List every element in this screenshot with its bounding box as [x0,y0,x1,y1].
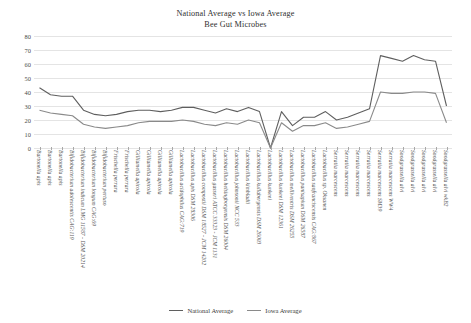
x-axis-tick-label: Gilliamella apicola [157,150,163,195]
x-axis-tick-label: Bifidobacterium pertuso [102,150,108,206]
x-axis-tick-label: Lactobacillus gasseri ATCC 33323 - JCM 1… [212,150,218,258]
y-axis-tick-label: 30 [3,103,31,110]
series-line [40,56,447,148]
x-axis-tick-label: Gilliamella apicola [135,150,141,195]
legend-item[interactable]: National Average [169,307,233,314]
x-axis-tick-label: Frischella perrara [113,150,119,193]
legend-item[interactable]: Iowa Average [247,307,301,314]
legend-line-icon [169,310,183,312]
series-lines [34,36,452,148]
x-axis-tick-label: Frischella perrara [124,150,130,193]
chart-container: National Average vs Iowa Average Bee Gut… [0,0,471,323]
x-axis-tick-label: Lactobacillus kunkeei [267,150,273,200]
chart-title-line-2: Bee Gut Microbes [0,19,471,30]
x-axis-tick-label: Lactobacillus kunkeei DSM 12361 [278,150,284,229]
y-axis-tick-label: 70 [3,47,31,54]
legend-line-icon [247,310,261,312]
y-axis-tick-label: 20 [3,117,31,124]
x-axis-tick-label: Bifidobacterium adolescentis CAG:119 [69,150,75,240]
x-axis-tick-label: Lactobacillus panisapium DSM 26587 [300,150,306,238]
x-axis-tick-label: Lactobacillus apis DSM 28306 [190,150,196,221]
gridline [34,148,452,149]
chart-title: National Average vs Iowa Average Bee Gut… [0,8,471,30]
x-axis-tick-label: Gilliamella apicola [168,150,174,195]
x-axis-tick-label: Lactobacillus kimbladii [245,150,251,204]
y-axis-tick-label: 50 [3,75,31,82]
series-line [40,92,447,148]
x-axis-tick-label: Serratia marcescens [333,150,339,197]
x-axis-tick-label: Serratia marcescens [355,150,361,197]
x-axis-tick-label: Bartonella apis [36,150,42,185]
x-axis-tick-label: Snodgrassella alvi [410,150,416,192]
y-axis-tick-label: 10 [3,131,31,138]
y-axis: 01020304050607080 [0,36,31,148]
legend-item-label: National Average [187,307,233,314]
x-axis-tick-label: Snodgrassella alvi [399,150,405,192]
chart-title-line-1: National Average vs Iowa Average [0,8,471,19]
x-axis-tick-label: Lactobacillus compostii DSM 18527 - JCM … [201,150,207,265]
x-axis-tick-label: Lactobacillus helsingborgensis DSM 26004 [223,150,229,250]
plot-area [34,36,452,148]
x-axis-tick-label: Snodgrassella alvi [421,150,427,192]
y-axis-tick-label: 80 [3,33,31,40]
x-axis-tick-label: Bartonella apis [47,150,53,185]
y-axis-tick-label: 40 [3,89,31,96]
x-axis-tick-label: Snodgrassella alvi [432,150,438,192]
x-axis-tick-label: Serratia marcescens SM39 [377,150,383,211]
x-axis-tick-label: Lactobacillus kullabergensis DSM 26003 [256,150,262,244]
x-axis-tick-label: Lactobacillus sp. Oksanen [322,150,328,210]
x-axis-tick-label: Snodgrassella alvi wkB2 [443,150,449,206]
x-axis-tick-label: Bifidobacterium longum CAG:69 [91,150,97,226]
x-axis-tick-label: Bifidobacterium indicum LMG 11587 - DSM … [80,150,86,268]
x-axis-tick-label: Lactobacillus sanfranciscensis CAG:867 [311,150,317,244]
x-axis-tick-label: Lactobacillus acidophilus CAG:719 [179,150,185,232]
x-axis-tick-label: Serratia marcescens WW4 [388,150,394,210]
x-axis-tick-label: Bartonella apis [58,150,64,185]
y-axis-tick-label: 0 [3,145,31,152]
x-axis-tick-label: Serratia marcescens [344,150,350,197]
x-axis-labels: Bartonella apisBartonella apisBartonella… [34,150,452,290]
x-axis-tick-label: Gilliamella apicola [146,150,152,195]
y-axis-tick-label: 60 [3,61,31,68]
chart-legend: National AverageIowa Average [0,307,471,314]
x-axis-tick-label: Lactobacillus johnsonii NCC 533 [234,150,240,227]
legend-item-label: Iowa Average [265,307,301,314]
x-axis-tick-label: Lactobacillus melliventris DSM 26255 [289,150,295,238]
x-axis-tick-label: Serratia marcescens [366,150,372,197]
